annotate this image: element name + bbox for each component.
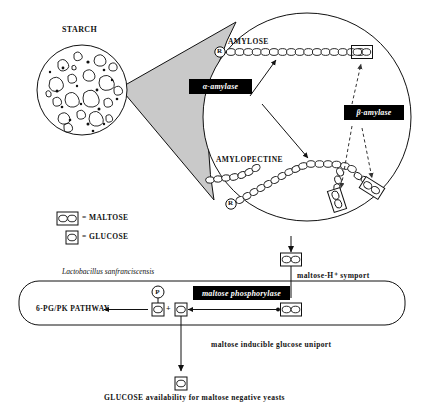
legend-glucose-text: = GLUCOSE <box>82 233 128 241</box>
extracellular-glucose-symbol <box>175 377 187 390</box>
organism-label: Lactobacillus sanfranciscensis <box>62 268 154 276</box>
legend-maltose-text: = MALTOSE <box>82 214 128 222</box>
legend-glucose-equals: = <box>82 232 87 241</box>
symport-label: maltose-H⁺ symport <box>297 272 370 280</box>
pathway-label: 6-PG/PK PATHWAY <box>36 305 110 313</box>
alpha-amylase-label[interactable]: α-amylase <box>189 79 252 94</box>
outcome-label: GLUCOSE availability for maltose negativ… <box>104 394 285 402</box>
legend-glucose-symbol <box>66 231 78 244</box>
legend-maltose-equals: = <box>82 213 87 222</box>
phosphate-label: P <box>155 289 159 296</box>
amylopectin-label: AMYLOPECTINE <box>216 156 283 164</box>
diagram-vector-layer <box>0 0 424 415</box>
extracellular-maltose-symbol <box>281 253 302 266</box>
amylose-label: AMYLOSE <box>228 38 269 46</box>
uniport-label: maltose inducible glucose uniport <box>211 341 332 349</box>
starch-granule <box>37 45 127 135</box>
starch-granule-label: STARCH <box>62 26 97 34</box>
plus-label: + <box>166 305 171 313</box>
legend-glucose-label: GLUCOSE <box>89 232 128 241</box>
maltose-phosphorylase-label[interactable]: maltose phosphorylase <box>193 286 290 300</box>
figure-canvas: STARCH AMYLOSE AMYLOPECTINE R R α-amylas… <box>0 0 424 415</box>
amylose-reducing-end-label: R <box>217 48 222 55</box>
legend-maltose-label: MALTOSE <box>89 213 128 222</box>
amylopectin-reducing-end-label: R <box>228 200 233 207</box>
legend-maltose-symbol <box>57 212 78 225</box>
beta-amylase-label[interactable]: β-amylase <box>344 105 404 120</box>
